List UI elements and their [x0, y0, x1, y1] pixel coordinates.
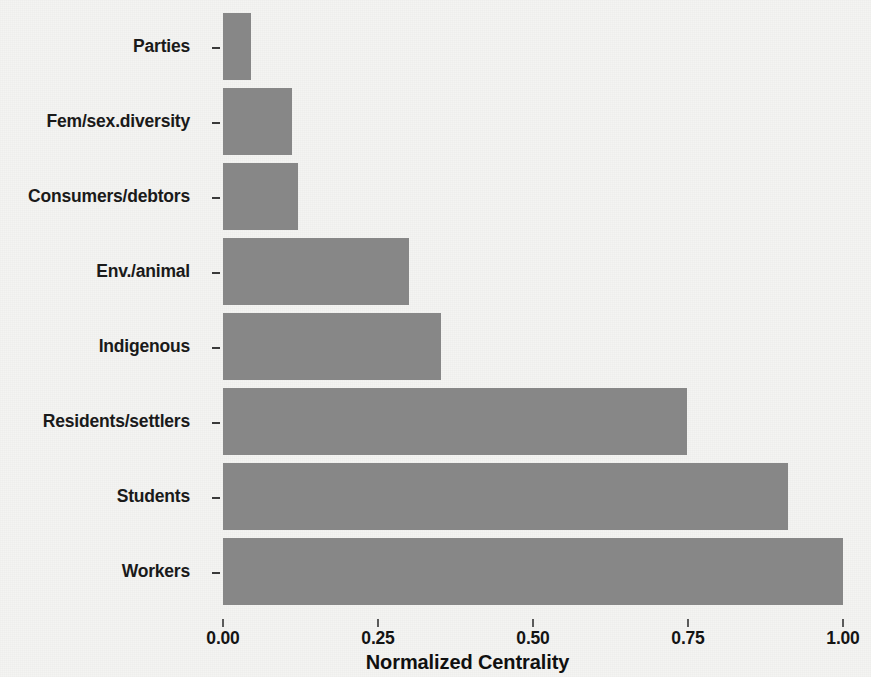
y-axis-tick-label: Fem/sex.diversity [47, 111, 191, 132]
x-axis-title: Normalized Centrality [0, 651, 871, 674]
y-axis-tick-label: Env./animal [96, 261, 190, 282]
y-axis-tick-label: Parties [133, 36, 190, 57]
plot-area [223, 0, 843, 614]
y-axis-tick-label: Residents/settlers [43, 411, 190, 432]
y-axis-tick-mark [212, 497, 220, 499]
bar-students [223, 463, 788, 530]
bar-row [223, 238, 843, 305]
x-axis-tick-mark [842, 619, 844, 627]
y-axis-tick-mark [212, 347, 220, 349]
bar-chart: PartiesFem/sex.diversityConsumers/debtor… [0, 0, 871, 677]
x-axis-tick-mark [532, 619, 534, 627]
x-axis-tick-label: 0.25 [361, 628, 394, 649]
bar-row [223, 538, 843, 605]
y-axis-tick-mark [212, 272, 220, 274]
x-axis-tick-label: 0.75 [671, 628, 704, 649]
x-axis-tick-label: 1.00 [826, 628, 859, 649]
y-axis-tick-mark [212, 47, 220, 49]
y-axis-tick-label: Consumers/debtors [28, 186, 190, 207]
bar-env-animal [223, 238, 409, 305]
bar-fem-sex-diversity [223, 88, 292, 155]
bar-consumers-debtors [223, 163, 298, 230]
y-axis-tick-mark [212, 422, 220, 424]
bar-row [223, 463, 843, 530]
x-axis-tick-mark [687, 619, 689, 627]
bar-row [223, 13, 843, 80]
bar-row [223, 313, 843, 380]
y-axis-tick-mark [212, 122, 220, 124]
y-axis-tick-mark [212, 197, 220, 199]
bar-row [223, 388, 843, 455]
bar-residents-settlers [223, 388, 687, 455]
bar-indigenous [223, 313, 441, 380]
bar-row [223, 163, 843, 230]
y-axis-tick-label: Indigenous [99, 336, 190, 357]
bar-workers [223, 538, 843, 605]
y-axis-tick-label: Workers [122, 561, 190, 582]
bar-parties [223, 13, 251, 80]
bar-row [223, 88, 843, 155]
x-axis-tick-mark [377, 619, 379, 627]
x-axis-title-text: Normalized Centrality [366, 651, 570, 674]
y-axis-tick-mark [212, 572, 220, 574]
y-axis-tick-label: Students [117, 486, 190, 507]
x-axis-tick-mark [222, 619, 224, 627]
x-axis-tick-label: 0.50 [516, 628, 549, 649]
x-axis-tick-label: 0.00 [206, 628, 239, 649]
